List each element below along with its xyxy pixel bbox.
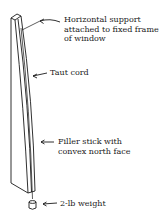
cord-arrow [33,73,47,78]
filler-label: Filler stick with convex north face [58,137,130,156]
weight-arrow [43,202,57,206]
weight-label: 2-lb weight [60,199,106,209]
weight-icon [29,201,36,210]
cord-label: Taut cord [50,68,89,78]
support-label: Horizontal support attached to fixed fra… [64,15,159,44]
support-arrow [22,19,60,30]
filler-arrow [41,140,54,144]
